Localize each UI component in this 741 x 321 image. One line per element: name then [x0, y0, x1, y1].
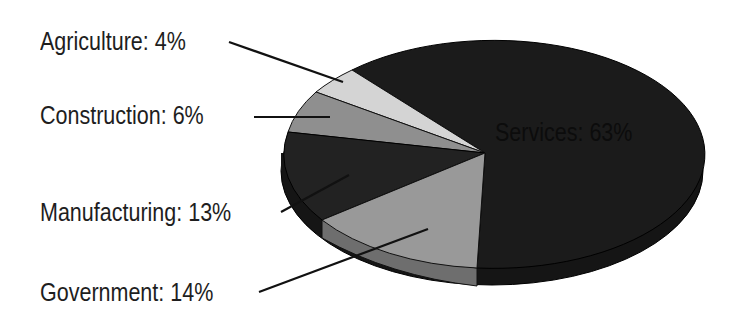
- pie-top: [284, 40, 705, 268]
- label-construction: Construction: 6%: [40, 101, 204, 130]
- label-manufacturing: Manufacturing: 13%: [40, 198, 231, 227]
- label-government: Government: 14%: [40, 278, 213, 307]
- leader-agriculture: [229, 42, 343, 82]
- label-agriculture: Agriculture: 4%: [40, 27, 186, 56]
- label-services: Services: 63%: [495, 118, 632, 147]
